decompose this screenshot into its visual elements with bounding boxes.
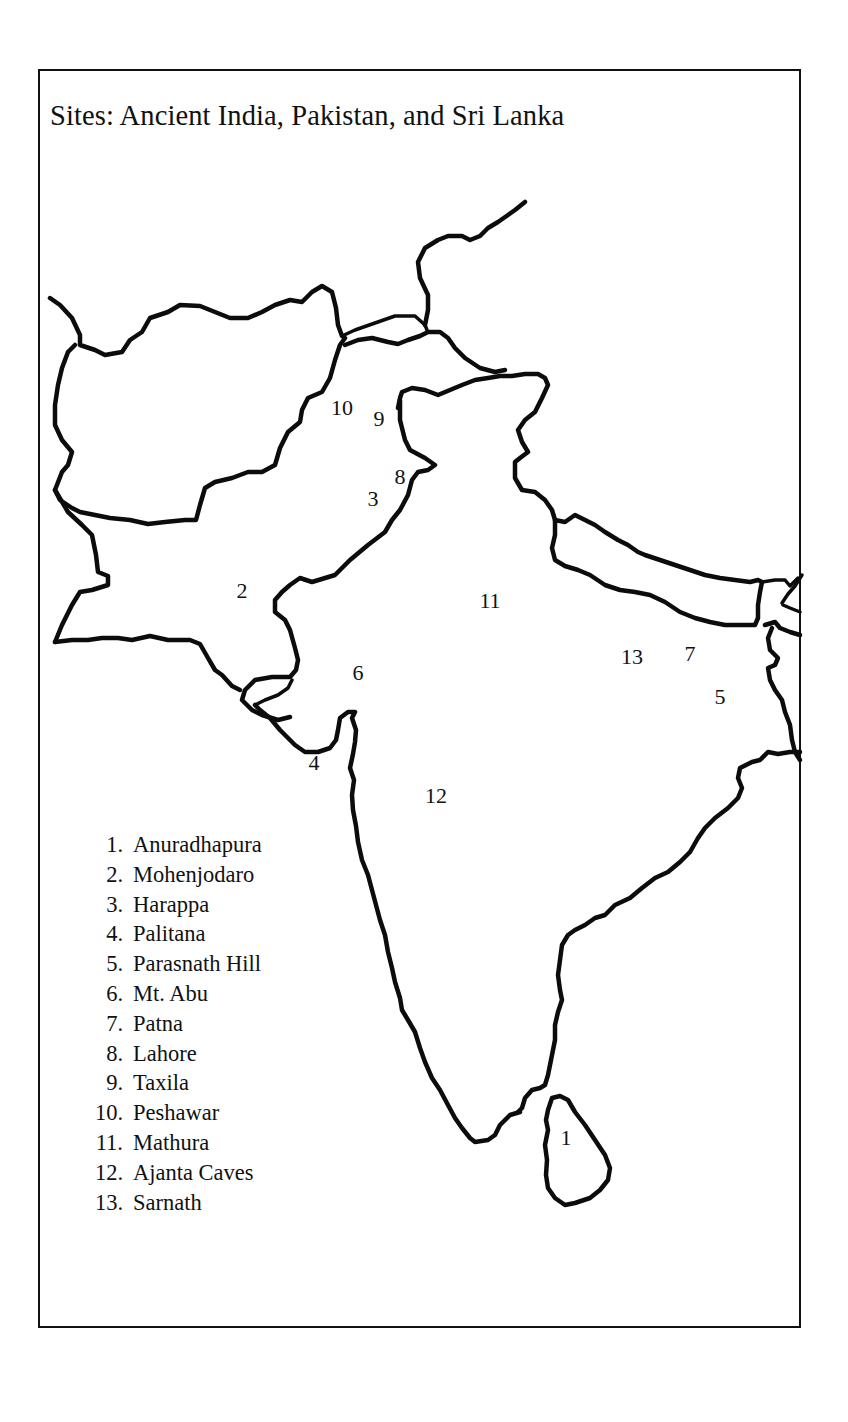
border-pakistan-india (345, 332, 505, 372)
site-marker-1: 1 (561, 1127, 572, 1149)
site-marker-11: 11 (479, 590, 500, 612)
legend-number: 9. (66, 1068, 133, 1098)
legend-item: 1.Anuradhapura (66, 830, 262, 860)
border-nepal (552, 515, 762, 625)
border-northeast-3 (783, 605, 800, 612)
legend-number: 7. (66, 1009, 133, 1039)
border-northeast-1 (762, 578, 798, 586)
legend-number: 5. (66, 949, 133, 979)
border-india-west-coast (255, 705, 520, 1142)
border-bangladesh (765, 622, 800, 760)
legend-item: 6.Mt. Abu (66, 979, 262, 1009)
legend-label: Patna (133, 1009, 183, 1039)
border-gujarat (255, 680, 292, 705)
site-marker-13: 13 (621, 646, 643, 668)
legend-item: 4.Palitana (66, 919, 262, 949)
site-marker-8: 8 (395, 466, 406, 488)
legend-item: 11.Mathura (66, 1128, 262, 1158)
legend-label: Anuradhapura (133, 830, 262, 860)
legend-number: 2. (66, 860, 133, 890)
legend-number: 1. (66, 830, 133, 860)
site-marker-6: 6 (353, 662, 364, 684)
legend-label: Mathura (133, 1128, 209, 1158)
legend-label: Peshawar (133, 1098, 219, 1128)
site-marker-2: 2 (237, 580, 248, 602)
legend-item: 13.Sarnath (66, 1188, 262, 1218)
legend-label: Harappa (133, 890, 209, 920)
legend-label: Taxila (133, 1068, 189, 1098)
site-marker-5: 5 (715, 686, 726, 708)
legend: 1.Anuradhapura2.Mohenjodaro3.Harappa4.Pa… (66, 830, 262, 1217)
border-china-north (418, 202, 525, 325)
legend-item: 9.Taxila (66, 1068, 262, 1098)
border-india-east-coast (518, 752, 800, 1112)
border-afghanistan (50, 286, 345, 524)
legend-label: Sarnath (133, 1188, 202, 1218)
legend-item: 2.Mohenjodaro (66, 860, 262, 890)
border-wakhan (342, 316, 427, 336)
legend-label: Mohenjodaro (133, 860, 254, 890)
legend-label: Palitana (133, 919, 205, 949)
legend-number: 3. (66, 890, 133, 920)
legend-number: 13. (66, 1188, 133, 1218)
legend-number: 10. (66, 1098, 133, 1128)
legend-item: 3.Harappa (66, 890, 262, 920)
legend-item: 12.Ajanta Caves (66, 1158, 262, 1188)
legend-label: Ajanta Caves (133, 1158, 254, 1188)
site-marker-9: 9 (374, 408, 385, 430)
legend-number: 8. (66, 1039, 133, 1069)
legend-number: 4. (66, 919, 133, 949)
border-india-north (398, 374, 555, 520)
legend-number: 6. (66, 979, 133, 1009)
legend-number: 11. (66, 1128, 133, 1158)
site-marker-7: 7 (685, 643, 696, 665)
legend-item: 5.Parasnath Hill (66, 949, 262, 979)
legend-label: Mt. Abu (133, 979, 208, 1009)
legend-label: Parasnath Hill (133, 949, 261, 979)
border-sri-lanka (545, 1096, 610, 1205)
border-kashmir-india (242, 400, 435, 720)
legend-item: 7.Patna (66, 1009, 262, 1039)
site-marker-12: 12 (425, 785, 447, 807)
border-pakistan-coast (55, 636, 240, 690)
legend-item: 8.Lahore (66, 1039, 262, 1069)
site-marker-3: 3 (368, 488, 379, 510)
legend-item: 10.Peshawar (66, 1098, 262, 1128)
site-marker-4: 4 (309, 752, 320, 774)
legend-label: Lahore (133, 1039, 197, 1069)
site-marker-10: 10 (331, 397, 353, 419)
legend-number: 12. (66, 1158, 133, 1188)
